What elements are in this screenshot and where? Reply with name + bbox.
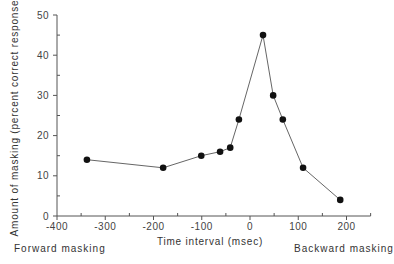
data-point — [227, 144, 234, 151]
x-tick-label: -400 — [46, 221, 68, 232]
y-tick-label: 0 — [43, 211, 49, 222]
data-point — [300, 164, 307, 171]
y-tick-label: 30 — [37, 90, 49, 101]
x-tick-label: 200 — [337, 221, 355, 232]
data-point — [337, 197, 344, 204]
x-tick-label: 100 — [289, 221, 307, 232]
series-line — [87, 35, 340, 200]
data-point — [217, 148, 224, 155]
x-tick-label: -300 — [94, 221, 116, 232]
y-axis-title: Amount of masking (percent correct respo… — [9, 0, 20, 236]
data-point — [160, 164, 167, 171]
ticks: 01020304050-400-300-200-1000100200 — [37, 10, 371, 233]
data-point — [270, 92, 277, 99]
y-tick-label: 20 — [37, 130, 49, 141]
data-point — [280, 116, 287, 123]
forward-masking-label: Forward masking — [14, 243, 106, 254]
data-point — [260, 32, 267, 39]
data-point — [84, 156, 91, 163]
data-series — [84, 32, 344, 203]
x-axis-title: Time interval (msec) — [157, 236, 263, 247]
data-point — [236, 116, 243, 123]
y-tick-label: 10 — [37, 170, 49, 181]
data-point — [198, 152, 205, 159]
x-tick-label: -100 — [191, 221, 213, 232]
x-tick-label: 0 — [247, 221, 253, 232]
y-tick-label: 50 — [37, 10, 49, 21]
x-tick-label: -200 — [142, 221, 164, 232]
y-tick-label: 40 — [37, 50, 49, 61]
backward-masking-label: Backward masking — [294, 243, 394, 254]
